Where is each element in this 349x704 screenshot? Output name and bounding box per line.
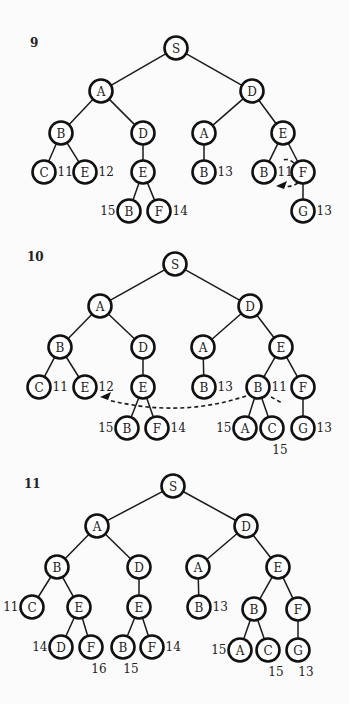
node-label: F [148, 641, 156, 655]
node-label: B [119, 641, 128, 655]
step-number-label: 9 [30, 36, 38, 50]
tree-node-a: A [89, 295, 112, 318]
node-label: B [125, 205, 134, 219]
node-label: E [277, 341, 286, 355]
tree-node-a: A15 [216, 417, 256, 440]
node-label: S [169, 480, 177, 494]
node-label: F [294, 603, 302, 617]
node-label: S [171, 258, 179, 272]
node-cost-annotation: 15 [216, 421, 231, 435]
tree-node-s: S [162, 475, 185, 498]
node-label: D [241, 520, 251, 534]
node-label: A [193, 561, 203, 575]
tree-edge [38, 577, 51, 597]
tree-edge [257, 315, 274, 338]
tree-node-g: G13 [292, 200, 332, 223]
tree-edge [244, 620, 251, 639]
tree-edge [133, 183, 139, 200]
tree-node-e: E [272, 122, 295, 145]
tree-node-f: F [292, 161, 315, 184]
node-label: F [87, 641, 95, 655]
tree-node-c: C15 [261, 417, 288, 457]
tree-diagram-step-10: 10SADBDAEC11E12EB13B11FB15F14A15C15G13 [27, 250, 332, 457]
dashed-arrow [271, 397, 282, 403]
node-label: D [138, 341, 148, 355]
tree-node-f: F [287, 598, 310, 621]
node-cost-annotation: 15 [211, 643, 226, 657]
node-label: B [123, 422, 132, 436]
node-label: B [260, 166, 269, 180]
tree-node-b: B15 [112, 636, 139, 676]
tree-node-e: E [270, 336, 293, 359]
node-label: E [274, 561, 283, 575]
tree-node-b: B [49, 336, 72, 359]
tree-edge [143, 618, 149, 636]
node-label: C [263, 644, 272, 658]
tree-node-e: E [128, 596, 151, 619]
node-cost-annotation: 12 [99, 165, 114, 179]
tree-edge [49, 144, 57, 162]
tree-node-f: F14 [146, 417, 187, 440]
node-label: F [299, 166, 307, 180]
tree-edge [68, 314, 92, 339]
node-cost-annotation: 11 [272, 380, 287, 394]
tree-node-a: A [193, 122, 216, 145]
tree-node-d: D14 [32, 636, 72, 659]
tree-node-a: A [192, 336, 215, 359]
tree-edge [288, 143, 298, 162]
step-number-label: 11 [24, 477, 41, 491]
tree-edge [127, 618, 134, 637]
node-cost-annotation: 13 [218, 165, 233, 179]
node-cost-annotation: 13 [218, 380, 233, 394]
node-cost-annotation: 15 [272, 443, 287, 457]
tree-edge [82, 618, 87, 636]
node-label: A [95, 300, 105, 314]
tree-node-b: B13 [193, 161, 233, 184]
tree-edge [212, 314, 242, 340]
node-label: A [92, 520, 102, 534]
node-label: C [39, 166, 48, 180]
node-label: G [298, 205, 308, 219]
tree-node-a: A [187, 556, 210, 579]
tree-node-c: C15 [257, 639, 284, 679]
node-label: G [293, 644, 303, 658]
node-cost-annotation: 12 [99, 380, 114, 394]
node-label: F [299, 381, 307, 395]
tree-edge [186, 54, 242, 86]
tree-edge [258, 620, 265, 639]
tree-node-f: F [292, 376, 315, 399]
node-label: A [199, 127, 209, 141]
tree-node-g: G13 [287, 639, 314, 679]
tree-node-e: E [267, 556, 290, 579]
node-label: D [56, 641, 66, 655]
node-label: E [81, 381, 90, 395]
node-label: E [139, 166, 148, 180]
node-label: S [172, 42, 180, 56]
node-cost-annotation: 14 [32, 640, 48, 654]
tree-edge [213, 99, 244, 126]
step-number-label: 10 [27, 250, 44, 264]
node-label: E [139, 381, 148, 395]
tree-node-e: E12 [74, 161, 114, 184]
node-cost-annotation: 15 [100, 204, 115, 218]
tree-node-a: A [90, 80, 113, 103]
node-label: F [153, 422, 161, 436]
tree-edge [44, 357, 54, 377]
node-cost-annotation: 13 [317, 204, 332, 218]
tree-node-b: B13 [193, 376, 233, 399]
search-tree-diagrams: 9SADBDAEC11E12EB13B11FB15F14G1310SADBDAE… [0, 0, 349, 704]
node-label: B [200, 166, 209, 180]
tree-node-b: B [46, 556, 69, 579]
node-cost-annotation: 14 [171, 421, 187, 435]
node-label: A [198, 341, 208, 355]
node-cost-annotation: 13 [317, 421, 332, 435]
tree-edge [105, 534, 131, 559]
node-label: E [135, 601, 144, 615]
tree-diagram-step-9: 9SADBDAEC11E12EB13B11FB15F14G13 [30, 36, 332, 223]
tree-node-c: C11 [3, 596, 43, 619]
tree-node-a: A [86, 515, 109, 538]
tree-edge [259, 100, 276, 123]
node-label: D [138, 127, 148, 141]
tree-edge [110, 270, 165, 301]
node-label: G [298, 422, 308, 436]
